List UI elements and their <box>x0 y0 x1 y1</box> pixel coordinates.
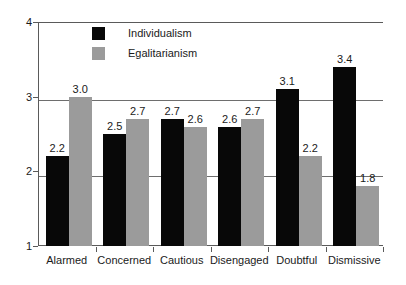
bar-value-alarmed-individualism: 2.2 <box>43 143 72 154</box>
bar-value-dismissive-egalitarianism: 1.8 <box>353 173 382 184</box>
x-tick-label-disengaged: Disengaged <box>210 254 269 266</box>
bars-layer: 2.23.02.52.72.72.62.62.73.12.23.41.8 <box>38 22 383 246</box>
bar-cautious-individualism <box>161 119 184 246</box>
bar-doubtful-egalitarianism <box>299 156 322 246</box>
x-tick-mark-3 <box>211 247 212 252</box>
legend-item-individualism: Individualism <box>92 24 197 42</box>
bar-value-concerned-egalitarianism: 2.7 <box>123 106 152 117</box>
x-tick-label-doubtful: Doubtful <box>276 254 317 266</box>
legend-swatch-individualism-icon <box>92 27 105 40</box>
bar-concerned-egalitarianism <box>126 119 149 246</box>
bar-value-dismissive-individualism: 3.4 <box>330 54 359 65</box>
bar-alarmed-egalitarianism <box>69 97 92 246</box>
bar-alarmed-individualism <box>46 156 69 246</box>
bar-disengaged-egalitarianism <box>241 119 264 246</box>
bar-value-disengaged-egalitarianism: 2.7 <box>238 106 267 117</box>
bar-dismissive-egalitarianism <box>356 186 379 246</box>
x-tick-mark-6 <box>383 247 384 252</box>
y-tick-label-2: 2 <box>10 166 32 177</box>
bar-value-concerned-individualism: 2.5 <box>100 121 129 132</box>
y-tick-mark-1 <box>33 246 38 247</box>
x-tick-label-cautious: Cautious <box>160 254 203 266</box>
y-tick-label-3: 3 <box>10 91 32 102</box>
legend-label-individualism: Individualism <box>128 28 192 39</box>
legend-label-egalitarianism: Egalitarianism <box>128 48 197 59</box>
bar-value-doubtful-individualism: 3.1 <box>273 76 302 87</box>
x-tick-mark-5 <box>326 247 327 252</box>
bar-doubtful-individualism <box>276 89 299 246</box>
bar-chart: 1234 2.23.02.52.72.72.62.62.73.12.23.41.… <box>0 0 406 285</box>
y-tick-label-1: 1 <box>10 241 32 252</box>
x-tick-mark-1 <box>96 247 97 252</box>
bar-value-cautious-egalitarianism: 2.6 <box>181 114 210 125</box>
x-tick-label-dismissive: Dismissive <box>328 254 381 266</box>
chart-legend: Individualism Egalitarianism <box>92 24 197 64</box>
bar-concerned-individualism <box>103 134 126 246</box>
bar-dismissive-individualism <box>333 67 356 246</box>
legend-item-egalitarianism: Egalitarianism <box>92 44 197 62</box>
legend-swatch-egalitarianism-icon <box>92 47 105 60</box>
x-tick-label-alarmed: Alarmed <box>46 254 87 266</box>
y-tick-label-4: 4 <box>10 17 32 28</box>
bar-disengaged-individualism <box>218 127 241 246</box>
x-tick-mark-4 <box>268 247 269 252</box>
bar-cautious-egalitarianism <box>184 127 207 246</box>
bar-value-alarmed-egalitarianism: 3.0 <box>66 84 95 95</box>
x-tick-mark-2 <box>153 247 154 252</box>
bar-value-doubtful-egalitarianism: 2.2 <box>296 143 325 154</box>
x-tick-label-concerned: Concerned <box>97 254 151 266</box>
